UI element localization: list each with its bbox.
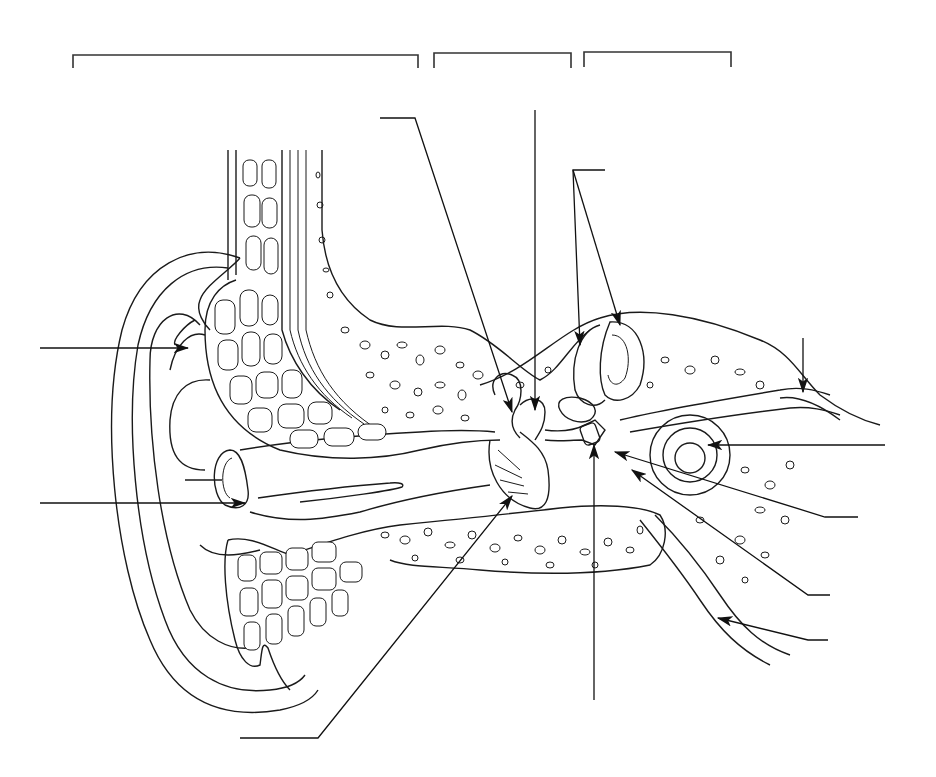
eustachian-tube-leader <box>718 618 828 640</box>
ear-drawing <box>0 0 936 777</box>
temporal-bone-upper <box>205 150 590 458</box>
inner-ear <box>480 312 880 665</box>
label-leaders <box>40 110 885 738</box>
lower-cells <box>238 542 362 650</box>
porous-bone-lower <box>381 526 643 568</box>
bone-cells <box>215 160 386 448</box>
porous-bone-inner <box>647 356 794 583</box>
tragus <box>185 450 248 508</box>
semicircular-canals-leader-b <box>573 170 620 325</box>
porous-bone-upper <box>316 172 551 421</box>
malleus-leader <box>380 118 512 412</box>
lower-bone <box>225 506 665 690</box>
ear-anatomy-diagram <box>0 0 936 777</box>
round-window-leader <box>632 470 830 595</box>
